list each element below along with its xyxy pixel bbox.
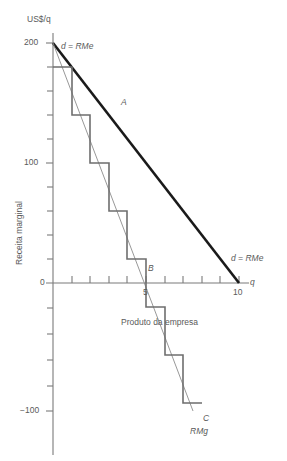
y-tick-marks: [46, 43, 53, 411]
point-a-label: A: [121, 98, 127, 107]
y-tick-label-0: 0: [40, 278, 45, 287]
y-tick-label-minus-100: −100: [20, 406, 39, 415]
x-tick-label-10: 10: [233, 288, 242, 297]
demand-label-right: d = RMe: [231, 254, 263, 263]
x-tick-marks: [72, 276, 239, 283]
mr-curve-label: RMg: [190, 427, 208, 436]
demand-curve-line: [53, 43, 239, 283]
point-b-label: B: [148, 264, 154, 273]
x-axis-title: q: [250, 278, 255, 287]
x-tick-label-5: 5: [143, 288, 148, 297]
demand-label-top: d = RMe: [61, 42, 93, 51]
y-axis-title: Receita marginal: [14, 201, 24, 265]
y-tick-label-200: 200: [24, 38, 38, 47]
stepped-marginal-revenue-curve: [53, 67, 202, 403]
point-c-label: C: [203, 414, 209, 423]
y-tick-label-100: 100: [24, 158, 38, 167]
marginal-revenue-chart: US$/q Receita marginal q 200 100 0 −100 …: [0, 0, 287, 461]
firm-output-label: Produto da empresa: [121, 318, 198, 327]
y-axis-unit-label: US$/q: [27, 14, 51, 24]
axes-group: [46, 33, 249, 455]
chart-canvas: [0, 0, 287, 461]
